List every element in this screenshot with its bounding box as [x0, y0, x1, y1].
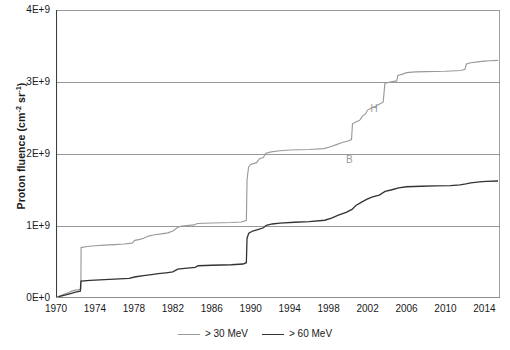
- y-tick-label: 4E+9: [6, 5, 50, 15]
- chart-root: Proton fluence (cm-2 sr-1) 0E+01E+92E+93…: [0, 0, 510, 350]
- x-tick-label: 2002: [346, 303, 390, 314]
- legend-item-30mev[interactable]: > 30 MeV: [178, 329, 248, 339]
- x-tick-label: 1974: [73, 303, 117, 314]
- grid-lines: [56, 11, 500, 299]
- plot-frame: [56, 10, 500, 298]
- annotation-b: B: [346, 155, 353, 165]
- x-tick-label: 1994: [268, 303, 312, 314]
- x-axis-tick-labels: 1970197419781982198619901994199820022006…: [0, 303, 510, 317]
- x-tick-label: 2010: [423, 303, 467, 314]
- x-tick-label: 1998: [307, 303, 351, 314]
- annotation-h: H: [370, 104, 377, 114]
- legend-item-60mev[interactable]: > 60 MeV: [262, 329, 332, 339]
- legend-swatch-30mev: [178, 334, 200, 335]
- x-tick-label: 1970: [34, 303, 78, 314]
- y-tick-label: 2E+9: [6, 149, 50, 159]
- chart-svg: [56, 10, 500, 298]
- y-tick-label: 0E+0: [6, 293, 50, 303]
- x-tick-label: 1986: [190, 303, 234, 314]
- x-tick-label: 1990: [229, 303, 273, 314]
- y-axis-tick-labels: 0E+01E+92E+93E+94E+9: [0, 0, 50, 350]
- y-tick-label: 3E+9: [6, 77, 50, 87]
- series-line-30mev: [56, 60, 498, 298]
- y-tick-label: 1E+9: [6, 221, 50, 231]
- series-line-60mev: [56, 181, 498, 298]
- plot-area: BH: [56, 10, 500, 298]
- chart-legend: > 30 MeV > 60 MeV: [0, 329, 510, 339]
- legend-label-30mev: > 30 MeV: [205, 329, 248, 339]
- legend-swatch-60mev: [262, 334, 284, 335]
- x-tick-label: 1978: [112, 303, 156, 314]
- x-tick-label: 2014: [462, 303, 506, 314]
- x-tick-label: 1982: [151, 303, 195, 314]
- legend-label-60mev: > 60 MeV: [289, 329, 332, 339]
- x-tick-label: 2006: [385, 303, 429, 314]
